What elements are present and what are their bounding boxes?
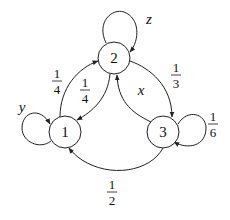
edge-1-to-2 <box>60 61 98 117</box>
fraction-1-to-2: 1 4 <box>52 66 62 97</box>
edge-3-to-2 <box>117 75 151 122</box>
edge-1-to-1 <box>22 113 51 145</box>
svg-text:1: 1 <box>109 177 116 192</box>
node-1: 1 <box>49 116 81 148</box>
svg-text:3: 3 <box>173 76 180 91</box>
svg-text:1: 1 <box>210 109 217 124</box>
svg-text:1: 1 <box>54 66 61 81</box>
node-2: 2 <box>98 42 130 74</box>
svg-text:1: 1 <box>82 75 89 90</box>
state-diagram: 2 1 3 z y x 1 4 1 4 1 3 1 6 1 2 <box>0 0 230 220</box>
loop-2-label: z <box>145 11 152 27</box>
node-label: 1 <box>61 124 69 140</box>
loop-1-label: y <box>17 99 26 115</box>
node-3: 3 <box>147 116 179 148</box>
edge-3-to-1 <box>69 148 163 170</box>
fraction-3-to-1: 1 2 <box>107 177 117 208</box>
fraction-2-to-1: 1 4 <box>80 75 90 106</box>
svg-text:6: 6 <box>210 125 217 140</box>
node-label: 3 <box>159 124 167 140</box>
svg-text:4: 4 <box>54 82 61 97</box>
edge-3-2-label: x <box>137 82 145 98</box>
fraction-2-to-3: 1 3 <box>171 60 181 91</box>
edge-2-to-3 <box>130 61 172 117</box>
fraction-3-to-3: 1 6 <box>208 109 218 140</box>
svg-text:4: 4 <box>82 91 89 106</box>
node-label: 2 <box>110 50 118 66</box>
svg-text:2: 2 <box>109 193 116 208</box>
svg-text:1: 1 <box>173 60 180 75</box>
